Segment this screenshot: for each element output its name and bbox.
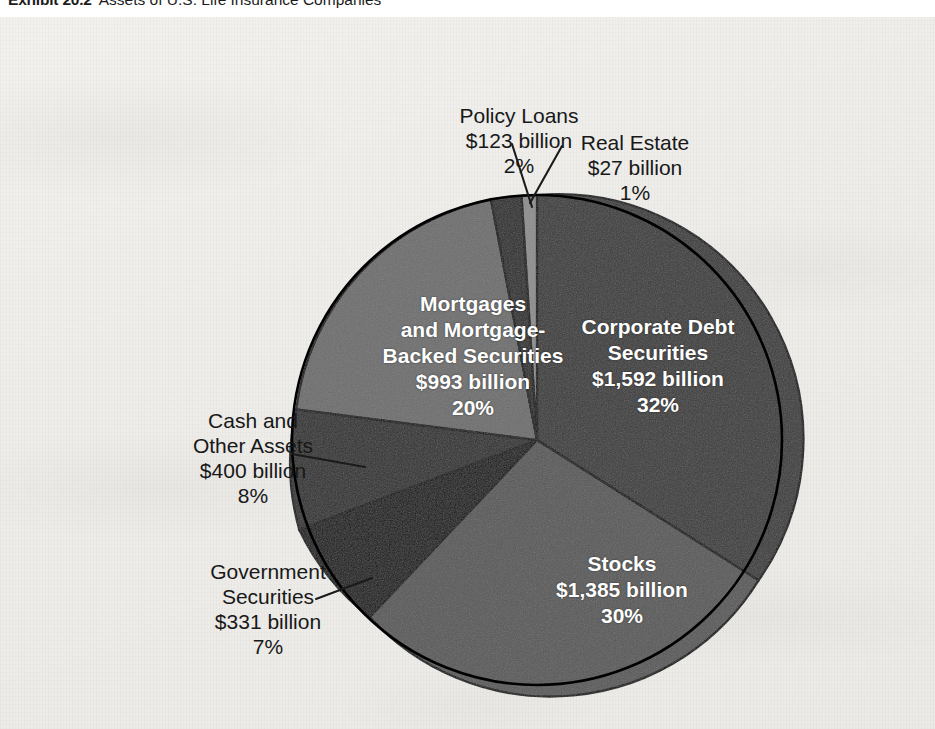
mortgages-value: $993 billion [348,369,598,395]
exhibit-number: Exhibit 20.2 [8,0,92,8]
slice-label-cash-and-other-assets: Cash and Other Assets $400 billion 8% [158,408,348,508]
slice-label-mortgages-and-mortgage-backed-securities: Mortgages and Mortgage- Backed Securitie… [348,291,598,421]
government-name-line1: Government [170,559,366,584]
government-percent: 7% [170,634,366,659]
pie-chart-figure: Policy Loans $123 billion 2% Real Estate… [0,17,935,729]
mortgages-name-line3: Backed Securities [348,343,598,369]
stocks-percent: 30% [508,603,736,629]
cash-name-line2: Other Assets [158,433,348,458]
slice-label-stocks: Stocks $1,385 billion 30% [508,551,736,629]
real-estate-percent: 1% [540,180,730,205]
mortgages-name-line1: Mortgages [348,291,598,317]
stocks-value: $1,385 billion [508,577,736,603]
mortgages-name-line2: and Mortgage- [348,317,598,343]
mortgages-percent: 20% [348,395,598,421]
exhibit-title: Assets of U.S. Life Insurance Companies [99,0,382,8]
real-estate-name: Real Estate [540,130,730,155]
policy-loans-name: Policy Loans [424,103,614,128]
cash-percent: 8% [158,483,348,508]
cash-value: $400 billion [158,458,348,483]
slice-label-government-securities: Government Securities $331 billion 7% [170,559,366,659]
real-estate-value: $27 billion [540,155,730,180]
slice-label-real-estate: Real Estate $27 billion 1% [540,130,730,205]
exhibit-header: Exhibit 20.2Assets of U.S. Life Insuranc… [0,0,935,17]
government-value: $331 billion [170,609,366,634]
cash-name-line1: Cash and [158,408,348,433]
government-name-line2: Securities [170,584,366,609]
stocks-name: Stocks [508,551,736,577]
